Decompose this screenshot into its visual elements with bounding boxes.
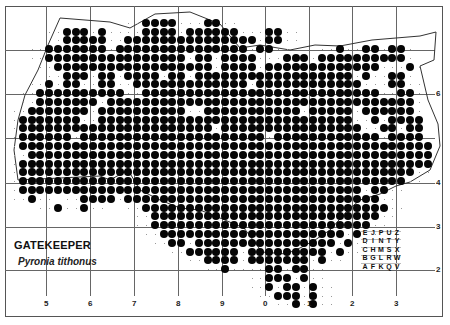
record-dot	[204, 142, 212, 150]
record-dot	[283, 116, 291, 124]
record-dot	[336, 230, 344, 238]
record-dot	[371, 45, 379, 53]
record-dot	[230, 54, 238, 62]
tetrad-stipple	[14, 190, 15, 191]
record-dot	[107, 98, 115, 106]
record-dot	[230, 160, 238, 168]
tetrad-key-letter: X	[393, 246, 401, 253]
tetrad-stipple	[331, 304, 332, 305]
record-dot	[248, 63, 256, 71]
record-dot	[406, 160, 414, 168]
record-dot	[274, 195, 282, 203]
record-dot	[204, 186, 212, 194]
record-dot	[239, 63, 247, 71]
tetrad-stipple	[216, 269, 217, 270]
record-dot	[63, 133, 71, 141]
record-dot	[336, 186, 344, 194]
record-dot	[151, 107, 159, 115]
tetrad-stipple	[137, 208, 138, 209]
record-dot	[327, 72, 335, 80]
record-dot	[292, 248, 300, 256]
tetrad-stipple	[216, 58, 217, 59]
record-dot	[212, 28, 220, 36]
record-dot	[274, 248, 282, 256]
record-dot	[195, 160, 203, 168]
record-dot	[248, 239, 256, 247]
tetrad-stipple	[260, 67, 261, 68]
record-dot	[221, 116, 229, 124]
record-dot	[72, 63, 80, 71]
record-dot	[371, 151, 379, 159]
record-dot	[292, 300, 300, 308]
tetrad-stipple	[375, 84, 376, 85]
tetrad-stipple	[49, 199, 50, 200]
record-dot	[292, 151, 300, 159]
tetrad-stipple	[357, 120, 358, 121]
record-dot	[248, 36, 256, 44]
record-dot	[151, 204, 159, 212]
record-dot	[318, 98, 326, 106]
record-dot	[116, 63, 124, 71]
tetrad-stipple	[296, 32, 297, 33]
record-dot	[239, 204, 247, 212]
tetrad-stipple	[357, 243, 358, 244]
record-dot	[116, 45, 124, 53]
tetrad-stipple	[392, 199, 393, 200]
tetrad-key-letter: J	[369, 229, 377, 236]
tetrad-key-letter: B	[361, 254, 369, 261]
record-dot	[98, 72, 106, 80]
record-dot	[406, 116, 414, 124]
record-dot	[371, 89, 379, 97]
record-dot	[168, 204, 176, 212]
tetrad-stipple	[331, 260, 332, 261]
record-dot	[336, 142, 344, 150]
record-dot	[248, 195, 256, 203]
tetrad-stipple	[14, 128, 15, 129]
tetrad-stipple	[348, 252, 349, 253]
record-dot	[107, 63, 115, 71]
record-dot	[72, 45, 80, 53]
record-dot	[212, 116, 220, 124]
record-dot	[151, 195, 159, 203]
record-dot	[283, 151, 291, 159]
record-dot	[63, 177, 71, 185]
tetrad-stipple	[84, 84, 85, 85]
record-dot	[327, 221, 335, 229]
tetrad-stipple	[102, 102, 103, 103]
tetrad-stipple	[243, 260, 244, 261]
record-dot	[336, 248, 344, 256]
record-dot	[283, 107, 291, 115]
record-dot	[230, 151, 238, 159]
tetrad-stipple	[392, 93, 393, 94]
tetrad-key-letter: R	[385, 254, 393, 261]
record-dot	[107, 72, 115, 80]
tetrad-key-letter: K	[377, 263, 385, 270]
record-dot	[283, 274, 291, 282]
record-dot	[204, 36, 212, 44]
record-dot	[195, 142, 203, 150]
record-dot	[274, 230, 282, 238]
record-dot	[54, 116, 62, 124]
tetrad-key-letter: V	[393, 263, 401, 270]
record-dot	[327, 98, 335, 106]
record-dot	[248, 72, 256, 80]
tetrad-stipple	[384, 216, 385, 217]
record-dot	[28, 116, 36, 124]
tetrad-stipple	[392, 190, 393, 191]
tetrad-stipple	[49, 67, 50, 68]
tetrad-stipple	[304, 287, 305, 288]
record-dot	[204, 89, 212, 97]
record-dot	[336, 195, 344, 203]
record-dot	[160, 177, 168, 185]
tetrad-stipple	[260, 296, 261, 297]
record-dot	[283, 186, 291, 194]
record-dot	[186, 142, 194, 150]
record-dot	[98, 28, 106, 36]
tetrad-stipple	[67, 208, 68, 209]
record-dot	[388, 72, 396, 80]
record-dot	[28, 177, 36, 185]
x-axis-label: 6	[88, 299, 92, 308]
tetrad-stipple	[40, 199, 41, 200]
record-dot	[239, 133, 247, 141]
record-dot	[204, 107, 212, 115]
